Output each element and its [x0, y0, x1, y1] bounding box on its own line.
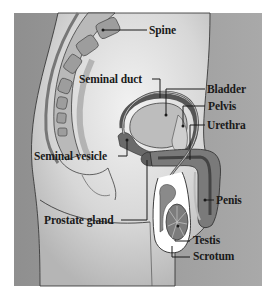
- label-testis: Testis: [193, 235, 220, 247]
- label-pelvis: Pelvis: [208, 101, 236, 113]
- label-penis: Penis: [216, 195, 242, 207]
- label-prostate-gland: Prostate gland: [44, 215, 114, 227]
- label-urethra: Urethra: [207, 120, 246, 132]
- label-scrotum: Scrotum: [193, 251, 234, 263]
- label-spine: Spine: [149, 25, 176, 37]
- label-bladder: Bladder: [207, 84, 246, 96]
- label-seminal-duct: Seminal duct: [79, 74, 142, 86]
- label-seminal-vesicle: Seminal vesicle: [34, 151, 107, 163]
